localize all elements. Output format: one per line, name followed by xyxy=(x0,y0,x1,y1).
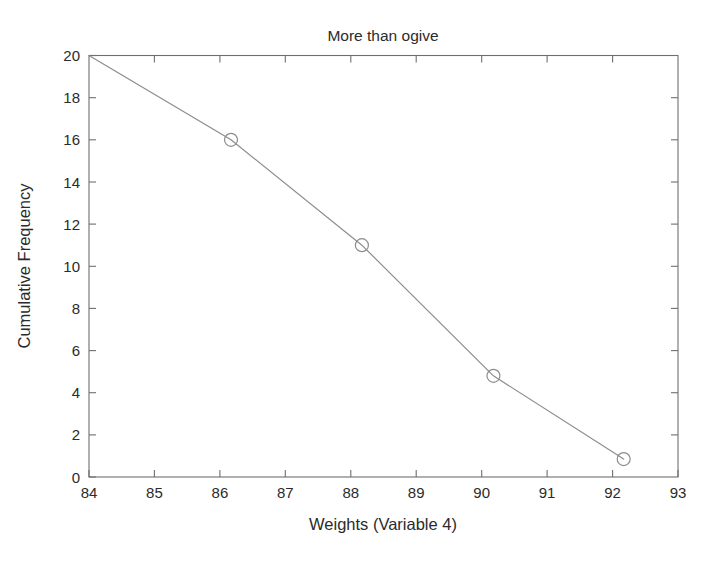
data-series-ogive xyxy=(89,56,630,466)
y-tick-label: 4 xyxy=(72,384,80,401)
x-tick-label: 92 xyxy=(604,484,621,501)
x-tick-label: 87 xyxy=(277,484,294,501)
y-tick-label: 0 xyxy=(72,469,80,486)
y-tick-label: 20 xyxy=(63,47,80,64)
x-tick-label: 84 xyxy=(81,484,98,501)
x-tick-label: 86 xyxy=(212,484,229,501)
x-tick-label: 89 xyxy=(408,484,425,501)
x-tick-label: 93 xyxy=(670,484,687,501)
x-tick-label: 91 xyxy=(539,484,556,501)
y-tick-label: 18 xyxy=(63,89,80,106)
y-tick-labels: 0 2 4 6 8 10 12 14 16 18 20 xyxy=(63,47,80,486)
y-axis-ticks-right xyxy=(671,98,678,435)
ogive-chart: More than ogive xyxy=(0,0,718,566)
x-axis-ticks-bottom xyxy=(89,470,678,477)
figure-canvas: More than ogive xyxy=(0,0,718,566)
y-tick-label: 16 xyxy=(63,131,80,148)
y-tick-label: 6 xyxy=(72,342,80,359)
series-line xyxy=(89,56,624,460)
y-tick-label: 12 xyxy=(63,216,80,233)
y-tick-label: 14 xyxy=(63,174,80,191)
y-axis-ticks-left xyxy=(89,56,96,478)
y-tick-label: 2 xyxy=(72,426,80,443)
x-axis-ticks-top xyxy=(154,56,612,63)
y-axis-label: Cumulative Frequency xyxy=(15,183,33,349)
x-tick-label: 85 xyxy=(146,484,163,501)
x-tick-label: 88 xyxy=(342,484,359,501)
y-tick-label: 8 xyxy=(72,300,80,317)
x-tick-labels: 84 85 86 87 88 89 90 91 92 93 xyxy=(81,484,687,501)
y-tick-label: 10 xyxy=(63,258,80,275)
chart-title: More than ogive xyxy=(327,27,438,44)
x-axis-label: Weights (Variable 4) xyxy=(309,515,457,533)
x-tick-label: 90 xyxy=(473,484,490,501)
